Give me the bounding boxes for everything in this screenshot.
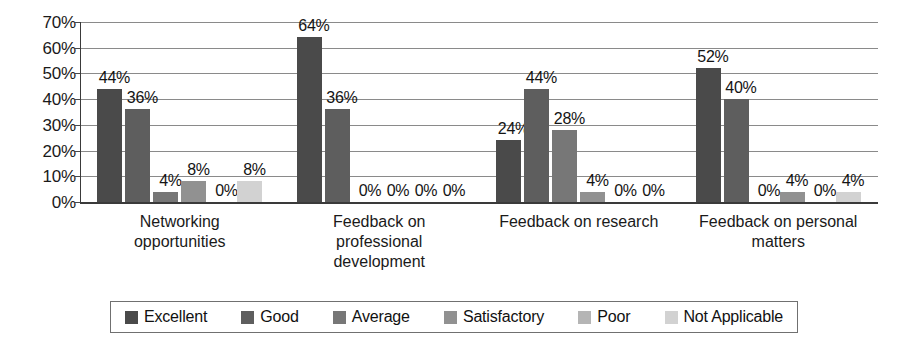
y-tick-label: 0% [52, 194, 76, 211]
legend-label: Not Applicable [684, 309, 784, 325]
category-label: Feedback on research [479, 212, 679, 232]
legend-item[interactable]: Poor [578, 309, 630, 325]
legend-swatch-icon [241, 311, 254, 324]
bar [724, 99, 749, 202]
bar [836, 192, 861, 202]
bar-value-label: 0% [614, 183, 637, 199]
legend-label: Average [352, 309, 410, 325]
category-label: Feedback onprofessionaldevelopment [280, 212, 480, 272]
legend-swatch-icon [444, 311, 457, 324]
bar-value-label: 0% [814, 183, 837, 199]
category-label-line: matters [679, 232, 879, 252]
y-tick-label: 60% [43, 39, 76, 56]
bar-value-label: 0% [415, 183, 438, 199]
legend-swatch-icon [665, 311, 678, 324]
y-tick-label: 40% [43, 91, 76, 108]
bar-value-label: 36% [127, 90, 158, 106]
bar [524, 89, 549, 202]
bar-value-label: 44% [99, 70, 130, 86]
legend-item[interactable]: Not Applicable [665, 309, 784, 325]
bar-value-label: 0% [642, 183, 665, 199]
legend-swatch-icon [578, 311, 591, 324]
x-axis-category-labels: NetworkingopportunitiesFeedback onprofes… [80, 212, 878, 292]
bar [780, 192, 805, 202]
bar-value-label: 0% [758, 183, 781, 199]
y-tick-label: 10% [43, 168, 76, 185]
bar-value-label: 8% [243, 162, 266, 178]
bar-value-label: 8% [187, 162, 210, 178]
category-label: Feedback on personalmatters [679, 212, 879, 252]
legend-item[interactable]: Average [333, 309, 410, 325]
bar [297, 37, 322, 202]
bar-value-label: 52% [697, 49, 728, 65]
category-label-line: Feedback on [280, 212, 480, 232]
y-tick-label: 50% [43, 65, 76, 82]
bar-chart: 0%10%20%30%40%50%60%70% 44%36%4%8%0%8%64… [0, 0, 914, 364]
bar-value-label: 40% [725, 80, 756, 96]
bar [125, 109, 150, 202]
bar-value-label: 0% [443, 183, 466, 199]
legend-label: Poor [597, 309, 630, 325]
bar-value-label: 0% [387, 183, 410, 199]
legend-swatch-icon [333, 311, 346, 324]
bar-value-label: 44% [526, 70, 557, 86]
category-label-line: opportunities [80, 232, 280, 252]
bar [153, 192, 178, 202]
bar-value-label: 4% [586, 173, 609, 189]
bar [181, 181, 206, 202]
bars-layer: 44%36%4%8%0%8%64%36%0%0%0%0%24%44%28%4%0… [80, 22, 878, 202]
category-label-line: Feedback on research [479, 212, 679, 232]
legend-item[interactable]: Excellent [125, 309, 207, 325]
plot-area: 0%10%20%30%40%50%60%70% 44%36%4%8%0%8%64… [0, 0, 914, 215]
bar [97, 89, 122, 202]
category-label-line: development [280, 252, 480, 272]
category-label-line: professional [280, 232, 480, 252]
bar-value-label: 4% [159, 173, 182, 189]
bar-value-label: 4% [842, 173, 865, 189]
bar [696, 68, 721, 202]
legend-label: Excellent [144, 309, 207, 325]
legend-swatch-icon [125, 311, 138, 324]
bar [496, 140, 521, 202]
y-axis-tick-labels: 0%10%20%30%40%50%60%70% [18, 14, 76, 202]
bar [325, 109, 350, 202]
y-tick-label: 20% [43, 142, 76, 159]
y-tick-label: 30% [43, 116, 76, 133]
bar-value-label: 28% [554, 111, 585, 127]
bar [552, 130, 577, 202]
bar-value-label: 64% [298, 18, 329, 34]
legend-label: Good [260, 309, 298, 325]
bar-value-label: 4% [786, 173, 809, 189]
x-axis-line [80, 202, 878, 204]
category-label: Networkingopportunities [80, 212, 280, 252]
category-label-line: Feedback on personal [679, 212, 879, 232]
legend: ExcellentGoodAverageSatisfactoryPoorNot … [110, 301, 798, 333]
legend-label: Satisfactory [463, 309, 544, 325]
legend-item[interactable]: Satisfactory [444, 309, 544, 325]
bar [580, 192, 605, 202]
bar-value-label: 36% [326, 90, 357, 106]
bar-value-label: 0% [215, 183, 238, 199]
y-tick-label: 70% [43, 14, 76, 31]
category-label-line: Networking [80, 212, 280, 232]
legend-item[interactable]: Good [241, 309, 298, 325]
bar-value-label: 0% [359, 183, 382, 199]
bar [237, 181, 262, 202]
